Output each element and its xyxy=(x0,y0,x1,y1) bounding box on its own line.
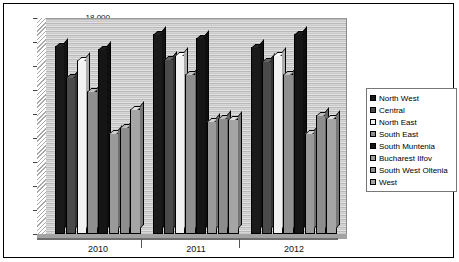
legend-item[interactable]: Bucharest Ilfov xyxy=(370,152,454,164)
bar xyxy=(294,34,304,234)
bar xyxy=(207,121,217,234)
chart-screenshot: 18,00016,00014,00012,00010,0008000600040… xyxy=(0,0,459,262)
legend-item[interactable]: South East xyxy=(370,128,454,140)
legend-item[interactable]: South Muntenia xyxy=(370,140,454,152)
legend-swatch-icon xyxy=(370,131,376,137)
bar-side-face xyxy=(140,101,144,229)
x-axis-category-label: 2011 xyxy=(166,244,226,254)
bar xyxy=(109,133,119,234)
bar xyxy=(130,109,140,234)
x-axis-group-separator xyxy=(141,239,142,248)
legend-swatch-icon xyxy=(370,107,376,113)
bar xyxy=(98,49,108,234)
plot-area xyxy=(37,18,347,240)
bar xyxy=(175,55,185,234)
x-axis-category-label: 2012 xyxy=(264,244,324,254)
bar xyxy=(66,77,76,234)
chart-legend: North WestCentralNorth EastSouth EastSou… xyxy=(366,88,457,192)
bar xyxy=(283,74,293,234)
x-axis-group-separator xyxy=(239,239,240,248)
legend-item[interactable]: South West Oltenia xyxy=(370,164,454,176)
plot-floor-edge xyxy=(37,238,338,240)
legend-item[interactable]: West xyxy=(370,176,454,188)
bar xyxy=(228,119,238,234)
bar xyxy=(164,59,174,234)
bar xyxy=(218,118,228,234)
bar xyxy=(305,133,315,234)
bar-side-face xyxy=(336,110,340,229)
bar-side-face xyxy=(238,111,242,229)
legend-item-label: South Muntenia xyxy=(379,142,435,151)
legend-swatch-icon xyxy=(370,119,376,125)
legend-item-label: Bucharest Ilfov xyxy=(379,154,432,163)
legend-swatch-icon xyxy=(370,167,376,173)
legend-item-label: South West Oltenia xyxy=(379,166,448,175)
legend-swatch-icon xyxy=(370,143,376,149)
legend-item[interactable]: North East xyxy=(370,116,454,128)
legend-item-label: Central xyxy=(379,106,405,115)
legend-item-label: West xyxy=(379,178,397,187)
legend-item[interactable]: North West xyxy=(370,92,454,104)
legend-swatch-icon xyxy=(370,95,376,101)
bar xyxy=(120,127,130,234)
bar xyxy=(77,60,87,234)
bar xyxy=(196,38,206,234)
legend-item-label: South East xyxy=(379,130,418,139)
bar xyxy=(87,91,97,234)
bar xyxy=(55,46,65,234)
bar xyxy=(153,34,163,234)
legend-swatch-icon xyxy=(370,155,376,161)
x-axis-category-label: 2010 xyxy=(68,244,128,254)
legend-item[interactable]: Central xyxy=(370,104,454,116)
legend-item-label: North East xyxy=(379,118,417,127)
legend-swatch-icon xyxy=(370,179,376,185)
bar xyxy=(273,55,283,234)
legend-item-label: North West xyxy=(379,94,419,103)
chart-frame: 18,00016,00014,00012,00010,0008000600040… xyxy=(3,3,454,258)
bar xyxy=(251,47,261,234)
bar xyxy=(262,61,272,234)
bar xyxy=(316,115,326,234)
bar xyxy=(326,118,336,234)
bar xyxy=(185,74,195,234)
